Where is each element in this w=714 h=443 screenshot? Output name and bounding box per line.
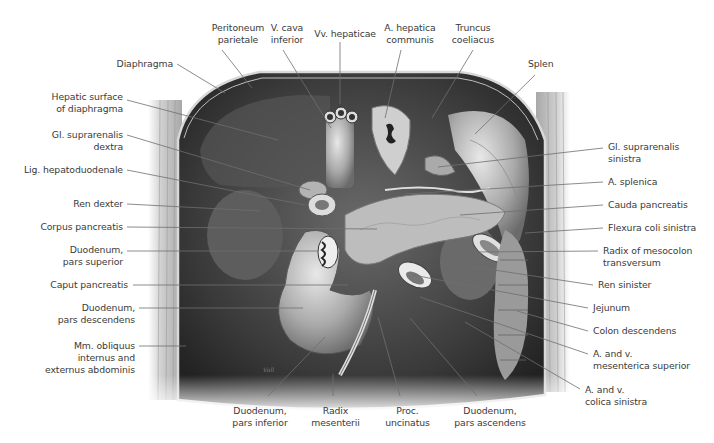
label-text: Splen (528, 58, 568, 70)
label-text: Colon descendens (593, 325, 693, 337)
label-text: of diaphragma (40, 103, 123, 115)
label-text: Duodenum, (50, 244, 123, 256)
label-text: parietale (208, 34, 268, 46)
label-a-splenica: A. splenica (608, 176, 688, 188)
label-duodenum-pars-superior: Duodenum,pars superior (50, 244, 123, 268)
label-ren-dexter: Ren dexter (60, 198, 123, 210)
label-text: transversum (603, 257, 713, 269)
label-text: colica sinistra (585, 396, 680, 408)
label-diaphragma: Diaphragma (108, 58, 173, 70)
label-text: Duodenum, (445, 405, 535, 417)
label-flexura-coli-sinistra: Flexura coli sinistra (608, 222, 713, 234)
label-text: Diaphragma (108, 58, 173, 70)
label-peritoneum-parietale: Peritoneumparietale (208, 22, 268, 46)
ren-dexter-shape (207, 190, 283, 280)
label-text: Vv. hepaticae (305, 28, 385, 40)
label-text: A. hepatica (380, 22, 440, 34)
label-text: pars descendens (40, 314, 135, 326)
label-text: dextra (40, 141, 123, 153)
label-gl-suprarenalis-sinistra: Gl. suprarenalissinistra (608, 141, 703, 165)
label-lig-hepatoduodenale: Lig. hepatoduodenale (10, 164, 123, 176)
label-text: Caput pancreatis (30, 279, 128, 291)
label-cauda-pancreatis: Cauda pancreatis (608, 199, 703, 211)
label-mm-obliquus-internus-externus: Mm. obliquusinternus andexternus abdomin… (30, 340, 135, 376)
label-text: Jejunum (593, 302, 653, 314)
label-text: externus abdominis (30, 364, 135, 376)
vena-cava-inferior (326, 118, 354, 188)
label-text: Peritoneum (208, 22, 268, 34)
label-text: A. and v. (585, 384, 680, 396)
label-text: uncinatus (380, 417, 435, 429)
label-duodenum-pars-inferior: Duodenum,pars inferior (225, 405, 295, 429)
label-text: Duodenum, (40, 302, 135, 314)
label-text: internus and (30, 352, 135, 364)
label-text: coeliacus (448, 34, 498, 46)
label-splen: Splen (528, 58, 568, 70)
label-duodenum-pars-ascendens: Duodenum,pars ascendens (445, 405, 535, 429)
label-text: Proc. (380, 405, 435, 417)
label-caput-pancreatis: Caput pancreatis (30, 279, 128, 291)
label-text: Gl. suprarenalis (608, 141, 703, 153)
label-proc-uncinatus: Proc.uncinatus (380, 405, 435, 429)
label-text: A. splenica (608, 176, 688, 188)
label-text: Mm. obliquus (30, 340, 135, 352)
label-text: pars inferior (225, 417, 295, 429)
label-text: Ren sinister (598, 279, 678, 291)
label-a-v-colica-sinistra: A. and v.colica sinistra (585, 384, 680, 408)
label-colon-descendens: Colon descendens (593, 325, 693, 337)
label-text: communis (380, 34, 440, 46)
label-a-hepatica-communis: A. hepaticacommunis (380, 22, 440, 46)
label-text: Corpus pancreatis (30, 221, 123, 233)
leader-line-diaphragma (177, 64, 225, 93)
label-text: Gl. suprarenalis (40, 129, 123, 141)
label-text: Lig. hepatoduodenale (10, 164, 123, 176)
label-truncus-coeliacus: Truncuscoeliacus (448, 22, 498, 46)
label-text: Cauda pancreatis (608, 199, 703, 211)
label-radix-of-mesocolon-transversum: Radix of mesocolontransversum (603, 245, 713, 269)
label-text: A. and v. (593, 348, 708, 360)
label-text: mesenterica superior (593, 360, 708, 372)
label-text: mesenterii (308, 417, 363, 429)
label-vv-hepaticae: Vv. hepaticae (305, 28, 385, 40)
label-gl-suprarenalis-dextra: Gl. suprarenalisdextra (40, 129, 123, 153)
label-hepatic-surface-of-diaphragma: Hepatic surfaceof diaphragma (40, 91, 123, 115)
label-text: Duodenum, (225, 405, 295, 417)
label-text: pars superior (50, 256, 123, 268)
label-corpus-pancreatis: Corpus pancreatis (30, 221, 123, 233)
label-text: Flexura coli sinistra (608, 222, 713, 234)
label-text: Truncus (448, 22, 498, 34)
label-text: sinistra (608, 153, 703, 165)
anatomy-figure: Voll PeritoneumparietaleV. cavainferiorV… (0, 0, 714, 443)
label-text: pars ascendens (445, 417, 535, 429)
label-jejunum: Jejunum (593, 302, 653, 314)
label-text: Ren dexter (60, 198, 123, 210)
artist-signature: Voll (263, 366, 274, 373)
label-text: Radix of mesocolon (603, 245, 713, 257)
label-duodenum-pars-descendens: Duodenum,pars descendens (40, 302, 135, 326)
label-a-v-mesenterica-superior: A. and v.mesenterica superior (593, 348, 708, 372)
label-text: Hepatic surface (40, 91, 123, 103)
label-ren-sinister: Ren sinister (598, 279, 678, 291)
label-text: Radix (308, 405, 363, 417)
label-radix-mesenterii: Radixmesenterii (308, 405, 363, 429)
